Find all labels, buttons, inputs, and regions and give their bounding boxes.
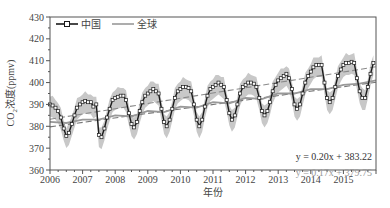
china-data-marker <box>263 114 266 117</box>
x-axis-title: 年份 <box>203 186 223 198</box>
china-data-marker <box>236 103 239 106</box>
x-tick-label: 2012 <box>236 174 256 185</box>
china-data-marker <box>76 106 79 109</box>
china-data-marker <box>168 118 171 121</box>
china-data-marker <box>290 88 293 91</box>
china-data-marker <box>89 101 92 104</box>
china-data-marker <box>173 96 176 99</box>
china-data-marker <box>195 118 198 121</box>
china-data-marker <box>225 99 228 102</box>
china-data-marker <box>369 72 372 75</box>
y-axis-ticks: 360370380390400410420430 <box>29 12 50 176</box>
china-data-marker <box>67 131 70 134</box>
y-tick-label: 410 <box>29 55 44 66</box>
china-data-marker <box>307 75 310 78</box>
y-tick-label: 400 <box>29 77 44 88</box>
china-data-marker <box>106 116 109 119</box>
china-data-marker <box>157 92 160 95</box>
china-data-marker <box>353 61 356 64</box>
china-data-marker <box>171 107 174 110</box>
china-data-marker <box>193 103 196 106</box>
china-data-marker <box>163 120 166 123</box>
china-data-marker <box>331 96 334 99</box>
china-data-marker <box>285 72 288 75</box>
china-data-marker <box>320 64 323 67</box>
china-data-marker <box>358 90 361 93</box>
legend-china-marker-icon <box>65 22 70 27</box>
china-data-marker <box>252 82 255 85</box>
china-data-marker <box>233 114 236 117</box>
x-tick-label: 2010 <box>170 174 190 185</box>
x-tick-label: 2008 <box>105 174 125 185</box>
china-data-marker <box>187 87 190 90</box>
china-data-marker <box>54 106 57 109</box>
china-data-marker <box>299 103 302 106</box>
china-data-marker <box>149 90 152 93</box>
china-data-marker <box>326 96 329 99</box>
x-tick-label: 2006 <box>40 174 60 185</box>
y-tick-label: 390 <box>29 99 44 110</box>
china-data-marker <box>65 135 68 138</box>
china-data-marker <box>328 101 331 104</box>
china-data-marker <box>364 96 367 99</box>
china-data-marker <box>312 66 315 69</box>
china-data-marker <box>127 112 130 115</box>
china-data-marker <box>130 123 133 126</box>
x-tick-label: 2009 <box>138 174 158 185</box>
china-data-marker <box>345 61 348 64</box>
y-tick-label: 380 <box>29 121 44 132</box>
china-data-marker <box>57 110 60 113</box>
china-data-marker <box>108 107 111 110</box>
china-data-marker <box>59 116 62 119</box>
china-data-marker <box>258 96 261 99</box>
china-data-marker <box>190 90 193 93</box>
legend-global-label: 全球 <box>137 18 157 30</box>
y-axis-title: CO2浓度(ppmv) <box>4 60 19 127</box>
china-data-marker <box>247 81 250 84</box>
china-data-marker <box>222 85 225 88</box>
china-data-marker <box>269 101 272 104</box>
china-data-marker <box>271 90 274 93</box>
x-tick-label: 2011 <box>203 174 223 185</box>
global-trend-equation: y = 0.17x + 379.75 <box>296 167 372 178</box>
china-data-marker <box>372 61 375 64</box>
china-data-marker <box>301 92 304 95</box>
china-data-marker <box>138 110 141 113</box>
china-data-marker <box>133 126 136 129</box>
china-data-marker <box>339 68 342 71</box>
y-tick-label: 370 <box>29 143 44 154</box>
china-data-marker <box>274 83 277 86</box>
y-tick-label: 420 <box>29 33 44 44</box>
legend: 中国 全球 <box>56 18 157 30</box>
china-data-marker <box>165 125 168 128</box>
china-data-marker <box>304 81 307 84</box>
china-data-marker <box>296 107 299 110</box>
china-data-marker <box>141 101 144 104</box>
china-data-marker <box>356 77 359 80</box>
china-data-marker <box>100 136 103 139</box>
china-data-marker <box>198 125 201 128</box>
china-data-marker <box>201 118 204 121</box>
china-data-marker <box>288 77 291 80</box>
china-data-marker <box>70 123 73 126</box>
china-data-marker <box>51 104 54 107</box>
china-data-marker <box>136 120 139 123</box>
china-data-marker <box>160 107 163 110</box>
china-data-marker <box>95 103 98 106</box>
x-tick-label: 2013 <box>268 174 288 185</box>
china-data-marker <box>334 85 337 88</box>
china-data-marker <box>293 103 296 106</box>
china-data-marker <box>239 92 242 95</box>
china-data-marker <box>260 110 263 113</box>
china-data-marker <box>255 85 258 88</box>
china-data-marker <box>230 118 233 121</box>
china-data-marker <box>125 99 128 102</box>
y-tick-label: 430 <box>29 12 44 23</box>
china-data-marker <box>279 77 282 80</box>
china-data-marker <box>336 75 339 78</box>
china-data-marker <box>366 85 369 88</box>
china-data-marker <box>309 70 312 73</box>
china-data-marker <box>103 127 106 130</box>
china-data-marker <box>323 81 326 84</box>
china-data-marker <box>203 105 206 108</box>
